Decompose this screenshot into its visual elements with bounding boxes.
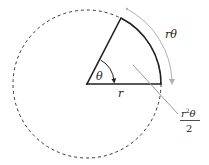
arc-length-label: rθ: [165, 28, 177, 41]
arc-length-arrow-start: [126, 8, 128, 10]
center-point: [86, 83, 88, 85]
area-fraction-label: r2θ 2: [180, 107, 200, 134]
radius-label: r: [118, 87, 124, 100]
sector-diagram: θ r rθ r2θ 2: [0, 0, 209, 165]
angle-label: θ: [96, 70, 103, 83]
svg-text:r2θ: r2θ: [181, 107, 196, 119]
area-numerator-tail: θ: [190, 108, 196, 119]
area-denominator: 2: [186, 123, 192, 134]
